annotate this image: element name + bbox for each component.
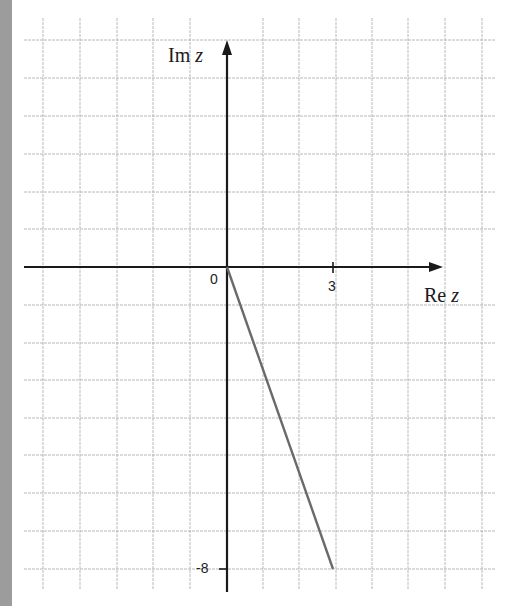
real-axis <box>24 262 443 272</box>
imaginary-axis-arrow-icon <box>222 40 232 55</box>
real-axis-arrow-icon <box>429 262 443 272</box>
tick-label-x-3: 3 <box>328 278 336 294</box>
real-axis-label-var: z <box>451 284 459 306</box>
imaginary-axis-label-main: Im <box>168 44 190 66</box>
origin-label: 0 <box>210 271 218 287</box>
imaginary-axis-label-var: z <box>195 44 203 66</box>
imaginary-axis <box>222 40 232 592</box>
real-axis-label-main: Re <box>424 284 446 306</box>
real-axis-label: Re z <box>424 284 459 307</box>
grid-vertical-lines <box>43 18 482 590</box>
imaginary-axis-label: Im z <box>168 44 203 67</box>
tick-label-y-neg8: -8 <box>196 560 208 576</box>
